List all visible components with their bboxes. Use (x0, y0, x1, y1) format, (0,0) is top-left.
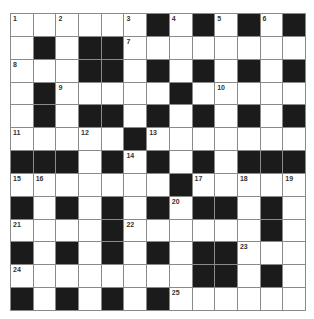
answer-cell[interactable] (283, 288, 305, 310)
answer-cell[interactable] (102, 265, 124, 287)
answer-cell[interactable] (147, 265, 169, 287)
answer-cell[interactable] (34, 220, 56, 242)
answer-cell[interactable] (124, 288, 146, 310)
answer-cell[interactable] (261, 174, 283, 196)
answer-cell[interactable]: 1 (11, 14, 33, 36)
answer-cell[interactable] (193, 128, 215, 150)
answer-cell[interactable] (238, 220, 260, 242)
answer-cell[interactable] (56, 174, 78, 196)
answer-cell[interactable]: 5 (215, 14, 237, 36)
answer-cell[interactable]: 2 (56, 14, 78, 36)
answer-cell[interactable] (215, 128, 237, 150)
answer-cell[interactable] (215, 60, 237, 82)
answer-cell[interactable] (215, 37, 237, 59)
answer-cell[interactable]: 4 (170, 14, 192, 36)
answer-cell[interactable]: 6 (261, 14, 283, 36)
answer-cell[interactable] (238, 197, 260, 219)
answer-cell[interactable] (102, 83, 124, 105)
answer-cell[interactable]: 3 (124, 14, 146, 36)
answer-cell[interactable]: 21 (11, 220, 33, 242)
answer-cell[interactable]: 20 (170, 197, 192, 219)
answer-cell[interactable] (261, 37, 283, 59)
answer-cell[interactable] (124, 242, 146, 264)
answer-cell[interactable] (283, 83, 305, 105)
answer-cell[interactable] (193, 220, 215, 242)
answer-cell[interactable] (124, 83, 146, 105)
answer-cell[interactable] (193, 288, 215, 310)
answer-cell[interactable] (215, 220, 237, 242)
answer-cell[interactable]: 18 (238, 174, 260, 196)
answer-cell[interactable] (170, 60, 192, 82)
answer-cell[interactable] (34, 265, 56, 287)
answer-cell[interactable] (102, 174, 124, 196)
answer-cell[interactable] (34, 288, 56, 310)
answer-cell[interactable]: 9 (56, 83, 78, 105)
answer-cell[interactable] (11, 105, 33, 127)
answer-cell[interactable] (170, 151, 192, 173)
answer-cell[interactable] (124, 265, 146, 287)
answer-cell[interactable] (170, 242, 192, 264)
answer-cell[interactable] (283, 197, 305, 219)
answer-cell[interactable] (124, 105, 146, 127)
answer-cell[interactable] (283, 37, 305, 59)
answer-cell[interactable] (283, 128, 305, 150)
answer-cell[interactable] (238, 83, 260, 105)
answer-cell[interactable] (215, 288, 237, 310)
answer-cell[interactable] (79, 288, 101, 310)
answer-cell[interactable] (56, 265, 78, 287)
answer-cell[interactable]: 10 (215, 83, 237, 105)
answer-cell[interactable] (56, 105, 78, 127)
answer-cell[interactable] (170, 37, 192, 59)
answer-cell[interactable]: 19 (283, 174, 305, 196)
answer-cell[interactable] (261, 83, 283, 105)
answer-cell[interactable] (238, 288, 260, 310)
answer-cell[interactable] (261, 288, 283, 310)
answer-cell[interactable] (261, 60, 283, 82)
answer-cell[interactable]: 7 (124, 37, 146, 59)
answer-cell[interactable] (56, 60, 78, 82)
answer-cell[interactable] (215, 105, 237, 127)
answer-cell[interactable] (147, 83, 169, 105)
answer-cell[interactable] (34, 128, 56, 150)
answer-cell[interactable] (34, 197, 56, 219)
answer-cell[interactable]: 16 (34, 174, 56, 196)
answer-cell[interactable] (283, 220, 305, 242)
answer-cell[interactable] (170, 220, 192, 242)
answer-cell[interactable] (56, 37, 78, 59)
answer-cell[interactable] (34, 242, 56, 264)
answer-cell[interactable]: 11 (11, 128, 33, 150)
answer-cell[interactable] (215, 174, 237, 196)
answer-cell[interactable] (238, 128, 260, 150)
answer-cell[interactable] (124, 60, 146, 82)
answer-cell[interactable] (11, 37, 33, 59)
answer-cell[interactable]: 25 (170, 288, 192, 310)
answer-cell[interactable] (147, 174, 169, 196)
answer-cell[interactable] (147, 37, 169, 59)
answer-cell[interactable] (170, 265, 192, 287)
answer-cell[interactable] (170, 105, 192, 127)
answer-cell[interactable]: 13 (147, 128, 169, 150)
answer-cell[interactable] (193, 83, 215, 105)
answer-cell[interactable] (34, 14, 56, 36)
answer-cell[interactable] (283, 242, 305, 264)
answer-cell[interactable] (283, 265, 305, 287)
answer-cell[interactable] (79, 151, 101, 173)
answer-cell[interactable]: 24 (11, 265, 33, 287)
answer-cell[interactable] (56, 220, 78, 242)
answer-cell[interactable] (79, 242, 101, 264)
answer-cell[interactable] (79, 14, 101, 36)
answer-cell[interactable] (124, 197, 146, 219)
answer-cell[interactable] (238, 37, 260, 59)
answer-cell[interactable]: 23 (238, 242, 260, 264)
answer-cell[interactable]: 22 (124, 220, 146, 242)
answer-cell[interactable] (238, 265, 260, 287)
answer-cell[interactable] (215, 151, 237, 173)
answer-cell[interactable] (102, 14, 124, 36)
answer-cell[interactable]: 8 (11, 60, 33, 82)
answer-cell[interactable] (79, 265, 101, 287)
answer-cell[interactable] (11, 83, 33, 105)
answer-cell[interactable] (170, 128, 192, 150)
answer-cell[interactable] (79, 197, 101, 219)
answer-cell[interactable]: 14 (124, 151, 146, 173)
answer-cell[interactable] (193, 37, 215, 59)
